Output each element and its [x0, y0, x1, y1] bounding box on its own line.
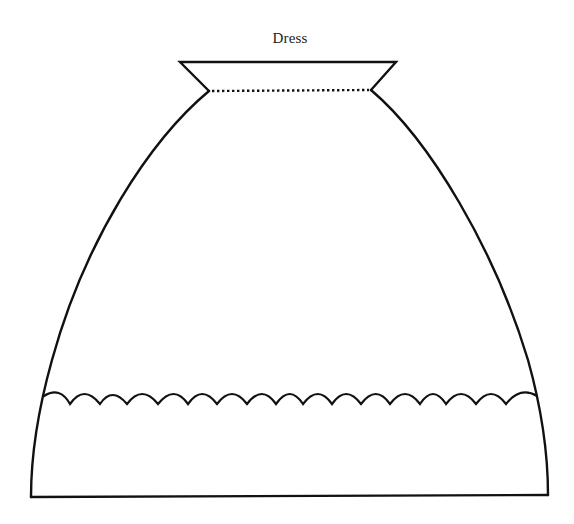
- waist-seam-dotted: [212, 90, 369, 91]
- skirt-hem: [31, 495, 548, 497]
- dress-pattern-diagram: [0, 0, 574, 524]
- skirt-left-edge: [31, 91, 209, 497]
- scallop-trim: [44, 392, 537, 404]
- waistband-outline: [180, 62, 396, 91]
- skirt-right-edge: [371, 90, 548, 495]
